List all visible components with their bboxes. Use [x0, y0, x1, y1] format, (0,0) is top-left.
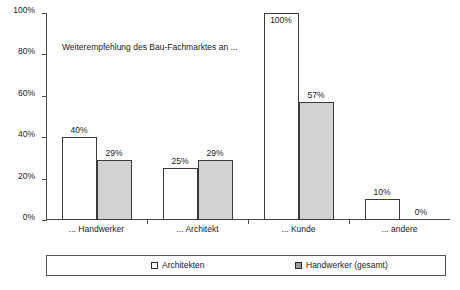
- y-axis-tick: 20%: [42, 179, 47, 180]
- y-axis-tick: 0%: [42, 220, 47, 221]
- chart-legend: Architekten Handwerker (gesamt): [46, 255, 446, 276]
- bar-chart: 0%20%40%60%80%100% 40%29%25%29%100%57%10…: [0, 0, 460, 290]
- bar-value-label: 57%: [299, 91, 334, 100]
- x-axis-category-label: ... Architekt: [147, 225, 248, 234]
- bar: [198, 160, 233, 220]
- y-axis-tick-label: 80%: [18, 47, 35, 56]
- x-axis-category-label: ... Handwerker: [46, 225, 147, 234]
- y-axis-tick: 80%: [42, 54, 47, 55]
- bar-value-label: 40%: [62, 126, 97, 135]
- y-axis-tick-label: 40%: [18, 130, 35, 139]
- bar-value-label: 29%: [198, 149, 233, 158]
- x-axis-tick: [248, 219, 249, 224]
- x-axis-tick: [147, 219, 148, 224]
- y-axis-tick-label: 100%: [13, 6, 35, 15]
- bar-value-label: 0%: [404, 208, 439, 217]
- legend-swatch-icon: [151, 262, 158, 269]
- legend-entry-handwerker-gesamt: Handwerker (gesamt): [295, 261, 388, 270]
- legend-label: Architekten: [162, 261, 205, 270]
- legend-label: Handwerker (gesamt): [306, 261, 388, 270]
- y-axis-tick-label: 20%: [18, 172, 35, 181]
- bar-value-label: 25%: [163, 157, 198, 166]
- bar: [97, 160, 132, 220]
- bar: [163, 168, 198, 220]
- y-axis-tick: 60%: [42, 96, 47, 97]
- legend-entry-architekten: Architekten: [151, 261, 205, 270]
- y-axis-tick-label: 0%: [23, 213, 35, 222]
- bar-value-label: 10%: [365, 188, 400, 197]
- bar-value-label: 100%: [264, 16, 299, 25]
- y-axis-line: [46, 13, 47, 220]
- y-axis-tick-label: 60%: [18, 89, 35, 98]
- x-axis-category-label: ... Kunde: [248, 225, 349, 234]
- bar: [264, 13, 299, 220]
- bar: [299, 102, 334, 220]
- x-axis-category-label: ... andere: [349, 225, 450, 234]
- y-axis-tick: 100%: [42, 13, 47, 14]
- bar: [365, 199, 400, 220]
- bar: [62, 137, 97, 220]
- bar-value-label: 29%: [97, 149, 132, 158]
- chart-annotation: Weiterempfehlung des Bau-Fachmarktes an …: [62, 43, 238, 52]
- x-axis-tick: [349, 219, 350, 224]
- legend-swatch-icon: [295, 262, 302, 269]
- y-axis-tick: 40%: [42, 137, 47, 138]
